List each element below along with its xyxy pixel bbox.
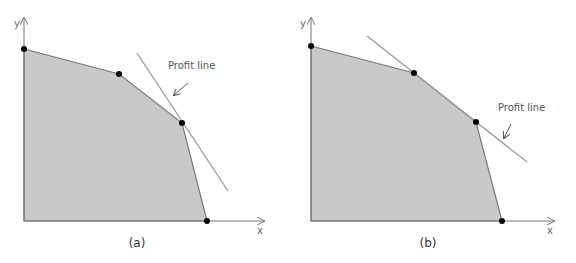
vertex-point bbox=[411, 70, 417, 76]
arrow-icon bbox=[504, 124, 511, 138]
y-axis-label: y bbox=[300, 18, 306, 29]
vertex-point bbox=[308, 43, 314, 49]
linear-programming-diagram: Profit line x y (a) Profit line x y (b) bbox=[0, 0, 576, 263]
feasible-region bbox=[24, 49, 207, 221]
panel-caption: (a) bbox=[129, 236, 146, 250]
vertex-point bbox=[204, 218, 210, 224]
vertex-point bbox=[116, 71, 122, 77]
panel-a: Profit line x y (a) bbox=[14, 18, 264, 250]
panel-b: Profit line x y (b) bbox=[300, 18, 554, 250]
vertex-point bbox=[473, 119, 479, 125]
x-axis-label: x bbox=[547, 225, 553, 236]
x-axis-label: x bbox=[257, 225, 263, 236]
vertex-point bbox=[179, 120, 185, 126]
profit-line-label: Profit line bbox=[168, 60, 215, 71]
y-axis-label: y bbox=[14, 18, 20, 29]
vertex-point bbox=[499, 218, 505, 224]
profit-line-label: Profit line bbox=[498, 102, 545, 113]
panel-caption: (b) bbox=[420, 236, 437, 250]
arrow-icon bbox=[174, 83, 188, 95]
feasible-region bbox=[311, 46, 502, 221]
vertex-point bbox=[21, 46, 27, 52]
